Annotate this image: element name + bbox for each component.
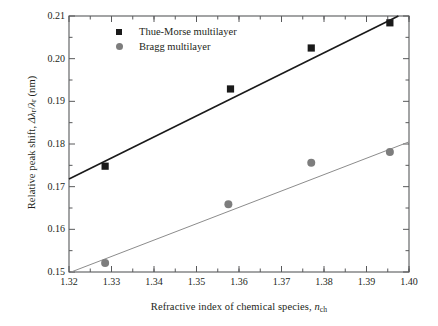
circle-marker-icon (108, 43, 130, 50)
minor-tick-marks (69, 16, 409, 272)
y-axis-title-lambda: λ (26, 102, 37, 107)
x-tick-label: 1.37 (262, 277, 302, 287)
square-data-point (386, 19, 393, 26)
x-axis-tick-labels: 1.321.331.341.351.361.371.381.391.40 (0, 277, 438, 293)
legend-swatch (116, 29, 122, 35)
x-tick-label: 1.39 (347, 277, 387, 287)
legend-label: Thue-Morse multilayer (130, 24, 237, 39)
legend-item: Bragg multilayer (108, 39, 237, 54)
circle-data-point (386, 148, 394, 156)
y-axis-title: Relative peak shift, Δλr/λr (nm) (26, 22, 39, 262)
x-tick-label: 1.33 (92, 277, 132, 287)
x-axis-title-lead: Refractive index of chemical species, (151, 301, 315, 312)
x-axis-title-sub: ch (320, 305, 327, 314)
legend-label: Bragg multilayer (130, 39, 210, 54)
y-axis-title-slash: / (26, 107, 37, 110)
y-axis-title-sub-r-2: r (29, 99, 38, 102)
y-axis-title-delta-lambda: Δλ (26, 112, 37, 123)
y-axis-title-units: (nm) (26, 76, 37, 100)
y-tick-label: 0.21 (31, 11, 65, 21)
square-marker-icon (108, 29, 130, 35)
circle-data-point (307, 159, 315, 167)
chart-figure: 0.150.160.170.180.190.200.21 1.321.331.3… (0, 0, 438, 326)
square-data-point (308, 44, 315, 51)
y-axis-title-lead: Relative peak shift, (26, 123, 37, 209)
legend-item: Thue-Morse multilayer (108, 24, 237, 39)
x-tick-label: 1.32 (49, 277, 89, 287)
x-tick-label: 1.40 (389, 277, 429, 287)
data-markers (101, 19, 394, 267)
x-tick-label: 1.36 (219, 277, 259, 287)
trend-lines (69, 16, 409, 272)
legend-swatch (116, 43, 123, 50)
x-tick-label: 1.38 (304, 277, 344, 287)
x-axis-title: Refractive index of chemical species, nc… (69, 301, 409, 314)
circle-data-point (101, 259, 109, 267)
square-data-point (102, 163, 109, 170)
circle-data-point (224, 200, 232, 208)
y-axis-title-sub-r-1: r (29, 110, 38, 113)
plot-frame (69, 16, 409, 272)
x-tick-label: 1.35 (177, 277, 217, 287)
major-tick-marks (69, 16, 409, 272)
x-tick-label: 1.34 (134, 277, 174, 287)
square-data-point (227, 85, 234, 92)
chart-legend: Thue-Morse multilayerBragg multilayer (108, 24, 237, 54)
trend-line (71, 142, 409, 272)
